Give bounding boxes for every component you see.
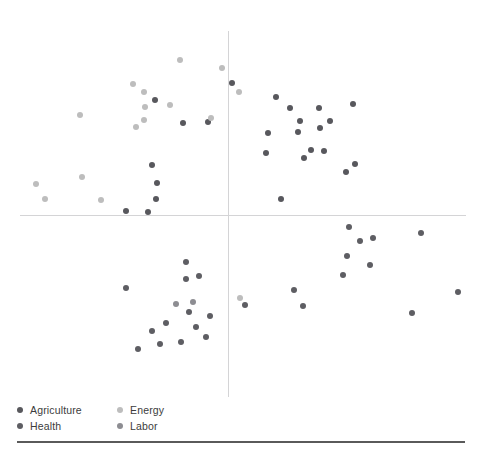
scatter-plot-figure: AgricultureEnergyHealthLabor	[0, 0, 481, 454]
data-point	[219, 65, 225, 71]
y-axis-line	[228, 31, 229, 397]
data-point	[163, 320, 169, 326]
data-point	[370, 235, 376, 241]
legend-label: Agriculture	[30, 404, 82, 416]
data-point	[167, 102, 173, 108]
data-point	[145, 209, 151, 215]
data-point	[352, 161, 358, 167]
data-point	[157, 341, 163, 347]
data-point	[190, 299, 196, 305]
legend-row: HealthLabor	[17, 418, 247, 434]
data-point	[98, 197, 104, 203]
legend-label: Health	[30, 420, 61, 432]
data-point	[183, 276, 189, 282]
data-point	[77, 112, 83, 118]
data-point	[317, 125, 323, 131]
data-point	[321, 148, 327, 154]
x-axis-line	[20, 215, 466, 216]
data-point	[418, 230, 424, 236]
data-point	[357, 238, 363, 244]
data-point	[207, 313, 213, 319]
data-point	[236, 89, 242, 95]
data-point	[133, 124, 139, 130]
data-point	[295, 129, 301, 135]
data-point	[130, 81, 136, 87]
legend-swatch-icon	[117, 407, 123, 413]
data-point	[149, 162, 155, 168]
data-point	[203, 334, 209, 340]
legend-swatch-icon	[17, 407, 23, 413]
data-point	[263, 150, 269, 156]
data-point	[208, 115, 214, 121]
data-point	[273, 94, 279, 100]
legend-swatch-icon	[117, 423, 123, 429]
data-point	[42, 196, 48, 202]
data-point	[297, 118, 303, 124]
data-point	[154, 180, 160, 186]
data-point	[149, 328, 155, 334]
data-point	[173, 301, 179, 307]
data-point	[141, 117, 147, 123]
legend-item-health[interactable]: Health	[17, 418, 117, 434]
data-point	[183, 259, 189, 265]
data-point	[141, 89, 147, 95]
data-point	[301, 155, 307, 161]
data-point	[152, 97, 158, 103]
data-point	[455, 289, 461, 295]
data-point	[343, 169, 349, 175]
data-point	[300, 303, 306, 309]
data-point	[278, 196, 284, 202]
data-point	[367, 262, 373, 268]
data-point	[177, 57, 183, 63]
legend-swatch-icon	[17, 423, 23, 429]
data-point	[33, 181, 39, 187]
legend-item-agriculture[interactable]: Agriculture	[17, 402, 117, 418]
data-point	[142, 104, 148, 110]
data-point	[237, 295, 243, 301]
legend-label: Labor	[130, 420, 158, 432]
chart-legend: AgricultureEnergyHealthLabor	[17, 402, 247, 434]
data-point	[291, 287, 297, 293]
data-point	[340, 272, 346, 278]
data-point	[196, 273, 202, 279]
data-point	[287, 105, 293, 111]
legend-item-energy[interactable]: Energy	[117, 402, 164, 418]
data-point	[123, 285, 129, 291]
data-point	[344, 253, 350, 259]
data-point	[123, 208, 129, 214]
data-point	[327, 118, 333, 124]
data-point	[229, 80, 235, 86]
data-point	[316, 105, 322, 111]
data-point	[186, 309, 192, 315]
data-point	[180, 120, 186, 126]
data-point	[193, 324, 199, 330]
legend-label: Energy	[130, 404, 164, 416]
legend-item-labor[interactable]: Labor	[117, 418, 158, 434]
legend-row: AgricultureEnergy	[17, 402, 247, 418]
footer-divider	[17, 441, 465, 443]
data-point	[350, 101, 356, 107]
data-point	[346, 224, 352, 230]
data-point	[242, 302, 248, 308]
data-point	[135, 346, 141, 352]
data-point	[79, 174, 85, 180]
plot-area	[0, 0, 481, 400]
data-point	[409, 310, 415, 316]
data-point	[153, 196, 159, 202]
data-point	[308, 147, 314, 153]
data-point	[178, 339, 184, 345]
data-point	[265, 130, 271, 136]
